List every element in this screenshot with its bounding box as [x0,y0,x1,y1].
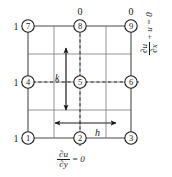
node-number: 3 [129,133,133,143]
boundary-value-top-right: 0 [129,6,134,17]
dimension-h-label: h [95,127,100,138]
grid-node: 9 [125,20,137,32]
boundary-value-left-middle: 1 [14,77,19,88]
boundary-condition-bottom: ∂u ∂y = 0 [57,150,85,170]
boundary-value-left-bottom: 1 [14,133,19,144]
fraction-du-dx: ∂u ∂x [140,42,160,55]
fraction-denominator: ∂x [149,42,159,54]
grid-node: 1 [22,132,34,144]
node-number: 5 [78,77,82,87]
grid-node: 2 [74,132,86,144]
node-number: 6 [129,77,133,87]
grid-node: 6 [125,76,137,88]
grid-node: 7 [22,20,34,32]
node-number: 1 [26,133,30,143]
node-number: 9 [129,21,133,31]
boundary-condition-right: ∂u ∂x + u = 0 [140,0,160,55]
grid-node: 5 [74,76,86,88]
dimension-k-label: k [55,72,60,83]
boundary-value-top-middle: 0 [78,6,83,17]
grid-node: 8 [74,20,86,32]
fraction-du-dy: ∂u ∂y [57,150,70,170]
fraction-denominator: ∂y [57,159,69,169]
boundary-value-left-top: 1 [14,21,19,32]
equation-tail: + u = 0 [145,12,154,40]
node-number: 8 [78,21,82,31]
fraction-numerator: ∂u [57,150,70,159]
fraction-numerator: ∂u [140,42,149,55]
node-number: 7 [26,21,30,31]
grid-node: 3 [125,132,137,144]
equation-tail: = 0 [72,155,85,164]
dimension-k: k [55,48,66,110]
finite-difference-grid-figure: k h 1 2 3 4 [0,0,172,177]
grid-node: 4 [22,76,34,88]
node-number: 2 [78,133,82,143]
